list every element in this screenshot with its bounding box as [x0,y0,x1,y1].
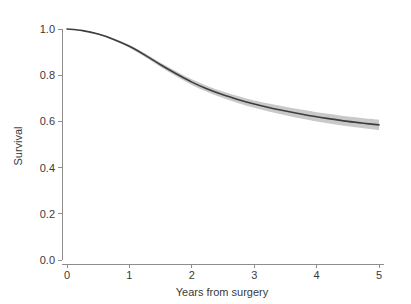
x-tick-label: 1 [126,269,132,281]
y-tick-label: 0.4 [40,162,55,174]
y-tick-label: 0.6 [40,115,55,127]
x-tick-label: 5 [376,269,382,281]
x-tick-label: 0 [64,269,70,281]
y-axis-title: Survival [12,126,24,165]
x-tick-label: 4 [314,269,320,281]
confidence-band [67,29,379,130]
survival-chart-figure: 0.00.20.40.60.81.0 012345 Years from sur… [0,0,411,304]
y-axis: 0.00.20.40.60.81.0 [40,23,62,266]
y-tick-label: 0.8 [40,69,55,81]
x-tick-label: 2 [189,269,195,281]
x-tick-label: 3 [251,269,257,281]
y-tick-label: 0.0 [40,254,55,266]
survival-plot-svg: 0.00.20.40.60.81.0 012345 Years from sur… [0,0,411,304]
y-tick-label: 1.0 [40,23,55,35]
x-axis: 012345 [62,264,384,281]
x-axis-ticks: 012345 [64,264,382,281]
y-axis-ticks: 0.00.20.40.60.81.0 [40,23,62,266]
x-axis-title: Years from surgery [176,286,269,298]
survival-curve-line [67,29,379,125]
y-tick-label: 0.2 [40,208,55,220]
